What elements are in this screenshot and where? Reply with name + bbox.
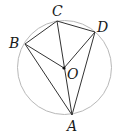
- segment-bc: [25, 21, 57, 44]
- label-o: O: [67, 66, 79, 82]
- label-d: D: [96, 19, 108, 35]
- segment-ba: [25, 44, 72, 115]
- center-point-o: [62, 66, 65, 69]
- label-c: C: [52, 3, 63, 19]
- segment-cd: [57, 21, 95, 32]
- label-b: B: [8, 35, 19, 51]
- segment-bo: [25, 44, 64, 68]
- label-a: A: [65, 118, 77, 133]
- geometry-diagram: A B C D O: [0, 0, 119, 133]
